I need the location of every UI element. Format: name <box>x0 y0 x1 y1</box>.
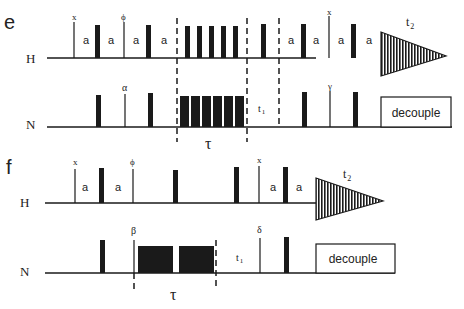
thick-pulse <box>353 92 358 127</box>
panel-e-h-channel-label: H <box>26 51 35 66</box>
train-pulse <box>233 26 238 58</box>
panel-f-h-pulses <box>75 166 288 203</box>
t2-label: t2 <box>406 15 414 31</box>
train-pulse <box>235 96 244 127</box>
delay-label: a <box>133 34 140 46</box>
delay-label: a <box>82 181 89 193</box>
panel-e: e H x ϕ x a a a a a <box>4 7 452 152</box>
train-pulse <box>213 96 222 127</box>
delay-label: a <box>366 34 373 46</box>
thick-pulse <box>173 170 178 203</box>
train-pulse <box>180 96 189 127</box>
thick-pulse <box>283 167 288 203</box>
panel-f-label: f <box>6 156 12 178</box>
phase-label: x <box>73 157 78 167</box>
panel-e-n-channel-label: N <box>26 117 36 132</box>
train-pulse <box>224 96 233 127</box>
panel-f-n-channel-label: N <box>20 264 30 279</box>
delay-label: a <box>83 34 90 46</box>
train-pulse <box>221 26 226 58</box>
train-pulse <box>191 96 200 127</box>
panel-f-h-channel-label: H <box>20 195 29 210</box>
panel-e-n-pulses <box>96 91 358 127</box>
delay-label: a <box>296 181 303 193</box>
panel-f: f H x ϕ x a a a a t2 N β <box>6 155 395 303</box>
spinlock-block <box>179 246 214 273</box>
train-pulse <box>209 26 214 58</box>
panel-f-acquisition-fid <box>316 178 383 220</box>
phase-label: ϕ <box>121 12 126 22</box>
tau-label: τ <box>205 135 212 152</box>
thick-pulse <box>351 24 356 58</box>
phase-label: x <box>257 155 262 165</box>
diagram-canvas: e H x ϕ x a a a a a <box>0 0 464 309</box>
phase-label: δ <box>257 224 262 235</box>
phase-label: ϕ <box>130 157 135 167</box>
phase-label: x <box>327 7 332 17</box>
decouple-label: decouple <box>329 252 378 266</box>
delay-label: a <box>108 34 115 46</box>
delay-label: a <box>270 181 277 193</box>
delay-label: a <box>313 34 320 46</box>
phase-label: γ <box>327 81 332 91</box>
spinlock-block <box>138 246 173 273</box>
thick-pulse <box>148 93 153 127</box>
pulse-sequence-diagram: e H x ϕ x a a a a a <box>0 0 464 309</box>
phase-label: β <box>131 225 136 236</box>
decouple-label: decouple <box>392 106 441 120</box>
delay-label: a <box>288 34 295 46</box>
panel-f-n-pulses <box>100 237 289 273</box>
train-pulse <box>185 26 190 58</box>
t1-label: t1 <box>258 103 266 116</box>
tau-label: τ <box>170 286 177 303</box>
thick-pulse <box>302 92 307 127</box>
phase-label: α <box>122 82 128 93</box>
thick-pulse <box>234 167 239 203</box>
train-pulse <box>202 96 211 127</box>
thick-pulse <box>96 95 101 127</box>
thick-pulse <box>99 168 104 203</box>
panel-e-h-labels: x ϕ x a a a a a a a a t2 <box>72 7 414 46</box>
delay-label: a <box>115 181 122 193</box>
thick-pulse <box>100 240 105 273</box>
thick-pulse <box>284 237 289 273</box>
t2-label: t2 <box>343 167 351 183</box>
train-pulse <box>197 26 202 58</box>
panel-e-acquisition-fid <box>381 32 446 76</box>
thick-pulse <box>146 25 151 58</box>
phase-label: x <box>72 12 77 22</box>
thick-pulse <box>95 25 100 58</box>
delay-label: a <box>338 34 345 46</box>
panel-e-label: e <box>4 11 15 33</box>
thick-pulse <box>261 24 266 58</box>
delay-label: a <box>161 34 168 46</box>
t1-label: t1 <box>236 252 244 265</box>
thick-pulse <box>301 24 306 58</box>
